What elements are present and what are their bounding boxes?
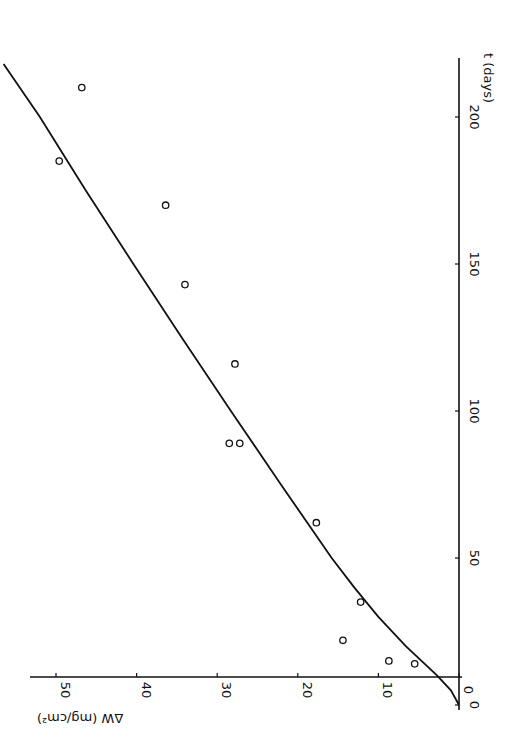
data-point-marker xyxy=(357,599,363,605)
time-tick-label: 100 xyxy=(467,399,482,424)
time-tick-label: 50 xyxy=(467,550,482,567)
data-point-marker xyxy=(386,658,392,664)
time-axis-title: t (days) xyxy=(481,53,496,103)
data-point-marker xyxy=(182,281,188,287)
time-tick-label: 200 xyxy=(467,105,482,130)
weight-gain-chart: 050100150200 01020304050 t (days) ΔW (mg… xyxy=(0,0,509,738)
data-point-marker xyxy=(313,520,319,526)
data-points xyxy=(56,84,418,667)
weight-tick-label: 40 xyxy=(139,682,154,699)
data-point-marker xyxy=(340,637,346,643)
time-tick-label: 150 xyxy=(467,252,482,277)
data-point-marker xyxy=(162,202,168,208)
weight-tick-label: 20 xyxy=(300,682,315,699)
weight-axis-title: ΔW (mg/cm²) xyxy=(37,711,123,726)
data-point-marker xyxy=(226,440,232,446)
fit-curve xyxy=(4,64,459,705)
data-point-marker xyxy=(56,158,62,164)
weight-tick-label: 30 xyxy=(219,682,234,699)
data-point-marker xyxy=(79,84,85,90)
weight-tick-label: 50 xyxy=(58,682,73,699)
data-point-marker xyxy=(411,661,417,667)
weight-tick-label: 10 xyxy=(380,682,395,699)
data-point-marker xyxy=(232,361,238,367)
data-point-marker xyxy=(237,440,243,446)
weight-tick-label: 0 xyxy=(461,686,476,694)
time-tick-label: 0 xyxy=(467,701,482,709)
